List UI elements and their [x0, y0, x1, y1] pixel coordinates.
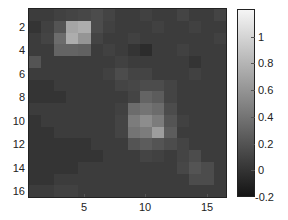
heatmap-cell	[201, 9, 213, 21]
heatmap-cell	[91, 80, 103, 92]
heatmap-cell	[66, 103, 78, 115]
heatmap-cell	[54, 150, 66, 162]
heatmap-cell	[214, 80, 226, 92]
x-tick-label: 10	[139, 201, 151, 213]
heatmap-cell	[189, 91, 201, 103]
heatmap-cell	[29, 185, 41, 197]
heatmap-cell	[128, 103, 140, 115]
heatmap-cell	[152, 150, 164, 162]
heatmap-cell	[152, 56, 164, 68]
heatmap-cell	[201, 150, 213, 162]
heatmap-cell	[115, 115, 127, 127]
heatmap-cell	[140, 138, 152, 150]
heatmap-cell	[103, 33, 115, 45]
y-tick-label: 8	[19, 91, 25, 103]
heatmap-cell	[115, 56, 127, 68]
heatmap-cell	[41, 80, 53, 92]
heatmap-cell	[152, 68, 164, 80]
heatmap-cell	[189, 33, 201, 45]
heatmap-cell	[214, 9, 226, 21]
heatmap-cell	[115, 80, 127, 92]
heatmap-cell	[214, 91, 226, 103]
heatmap-cell	[29, 80, 41, 92]
heatmap-cell	[103, 162, 115, 174]
heatmap-cell	[54, 68, 66, 80]
heatmap-cell	[177, 44, 189, 56]
heatmap-cell	[91, 44, 103, 56]
heatmap-cell	[41, 162, 53, 174]
heatmap-cell	[78, 56, 90, 68]
heatmap-cell	[103, 44, 115, 56]
heatmap-cell	[66, 9, 78, 21]
heatmap-cell	[29, 138, 41, 150]
heatmap-cell	[66, 127, 78, 139]
heatmap-cell	[152, 80, 164, 92]
heatmap-cell	[177, 80, 189, 92]
heatmap-cell	[189, 68, 201, 80]
heatmap-cell	[164, 174, 176, 186]
colorbar-tick-label: -0.2	[255, 191, 274, 203]
heatmap-cell	[201, 115, 213, 127]
heatmap-cell	[214, 162, 226, 174]
heatmap-cell	[54, 56, 66, 68]
heatmap-cell	[54, 80, 66, 92]
x-tick-mark	[84, 194, 85, 197]
heatmap-cell	[164, 68, 176, 80]
heatmap-cell	[103, 174, 115, 186]
heatmap-cell	[54, 44, 66, 56]
heatmap-cell	[66, 138, 78, 150]
heatmap-cell	[152, 103, 164, 115]
heatmap-cell	[91, 150, 103, 162]
heatmap-cell	[140, 91, 152, 103]
heatmap-cell	[91, 68, 103, 80]
heatmap-cell	[140, 44, 152, 56]
heatmap-cell	[189, 56, 201, 68]
heatmap-cell	[54, 115, 66, 127]
heatmap-cell	[214, 103, 226, 115]
heatmap-cell	[78, 127, 90, 139]
heatmap-cell	[128, 33, 140, 45]
heatmap-cell	[189, 115, 201, 127]
heatmap-cell	[201, 91, 213, 103]
heatmap-cell	[54, 185, 66, 197]
heatmap-cell	[140, 56, 152, 68]
heatmap-cell	[177, 56, 189, 68]
heatmap-cell	[164, 103, 176, 115]
colorbar-tick-mark	[251, 90, 255, 91]
heatmap-cell	[164, 162, 176, 174]
heatmap-cell	[201, 162, 213, 174]
heatmap-cell	[103, 68, 115, 80]
heatmap-cell	[91, 162, 103, 174]
heatmap-cell	[214, 33, 226, 45]
heatmap-cell	[177, 127, 189, 139]
heatmap-cell	[128, 150, 140, 162]
heatmap-cell	[189, 150, 201, 162]
heatmap-cell	[214, 150, 226, 162]
heatmap-cell	[41, 138, 53, 150]
heatmap-cell	[214, 115, 226, 127]
heatmap-cell	[66, 44, 78, 56]
colorbar-tick-mark	[251, 117, 255, 118]
heatmap-cell	[214, 44, 226, 56]
heatmap-cell	[91, 9, 103, 21]
heatmap-cell	[41, 44, 53, 56]
heatmap-cell	[29, 115, 41, 127]
heatmap-cell	[103, 9, 115, 21]
heatmap-cell	[103, 56, 115, 68]
heatmap-cell	[177, 115, 189, 127]
heatmap-cell	[103, 80, 115, 92]
heatmap-cell	[164, 138, 176, 150]
colorbar-tick-mark	[251, 37, 255, 38]
heatmap-cell	[128, 21, 140, 33]
x-tick-label: 5	[81, 201, 87, 213]
heatmap-cell	[115, 91, 127, 103]
heatmap-cell	[66, 80, 78, 92]
heatmap-cell	[189, 44, 201, 56]
heatmap-cell	[128, 138, 140, 150]
heatmap-cell	[152, 185, 164, 197]
heatmap-cell	[152, 162, 164, 174]
colorbar-tick-label: 1	[258, 31, 264, 43]
heatmap-cell	[29, 150, 41, 162]
heatmap-cell	[41, 127, 53, 139]
heatmap-cell	[29, 103, 41, 115]
